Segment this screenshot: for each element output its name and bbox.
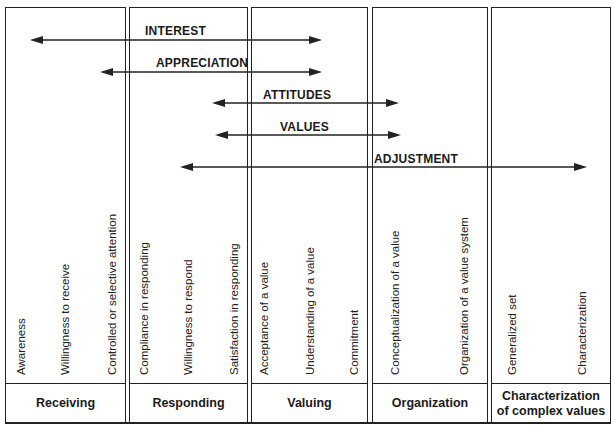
bottom-border bbox=[5, 422, 611, 424]
header-receiving: Receiving bbox=[6, 383, 125, 423]
header-label: Organization bbox=[392, 396, 468, 411]
header-responding: Responding bbox=[130, 383, 247, 423]
subcategory-willingness-to-receive: Willingness to receive bbox=[59, 264, 71, 375]
column-valuing: Acceptance of a value Understanding of a… bbox=[251, 7, 368, 424]
subcategory-controlled-attention: Controlled or selective attention bbox=[106, 214, 118, 375]
subcategory-understanding: Understanding of a value bbox=[304, 247, 316, 375]
arrow-label-adjustment: ADJUSTMENT bbox=[374, 152, 458, 166]
subcategory-willingness-to-respond: Willingness to respond bbox=[182, 259, 194, 375]
header-characterization: Characterization of complex values bbox=[492, 383, 610, 423]
header-valuing: Valuing bbox=[252, 383, 367, 423]
subcategory-compliance: Compliance in responding bbox=[138, 242, 150, 375]
subcategory-commitment: Commitment bbox=[348, 310, 360, 375]
column-organization: Conceptualization of a value Organizatio… bbox=[372, 7, 488, 424]
arrow-label-appreciation: APPRECIATION bbox=[156, 56, 248, 70]
subcategory-satisfaction: Satisfaction in responding bbox=[228, 243, 240, 375]
subcategory-generalized-set: Generalized set bbox=[506, 294, 518, 375]
arrow-label-values: VALUES bbox=[280, 120, 329, 134]
header-organization: Organization bbox=[373, 383, 487, 423]
subcategory-conceptualization: Conceptualization of a value bbox=[389, 231, 401, 376]
arrow-label-attitudes: ATTITUDES bbox=[263, 88, 331, 102]
header-label-line1: Characterization bbox=[497, 389, 605, 404]
header-label-line2: of complex values bbox=[497, 404, 605, 419]
column-receiving: Awareness Willingness to receive Control… bbox=[5, 7, 126, 424]
subcategory-acceptance: Acceptance of a value bbox=[258, 262, 270, 375]
arrow-label-interest: INTEREST bbox=[145, 24, 206, 38]
header-label: Responding bbox=[152, 396, 224, 411]
header-label: Valuing bbox=[287, 396, 331, 411]
subcategory-characterization: Characterization bbox=[576, 291, 588, 375]
subcategory-awareness: Awareness bbox=[15, 318, 27, 375]
header-label: Receiving bbox=[36, 396, 95, 411]
column-characterization: Generalized set Characterization Charact… bbox=[491, 7, 611, 424]
subcategory-organization-value-system: Organization of a value system bbox=[458, 217, 470, 375]
